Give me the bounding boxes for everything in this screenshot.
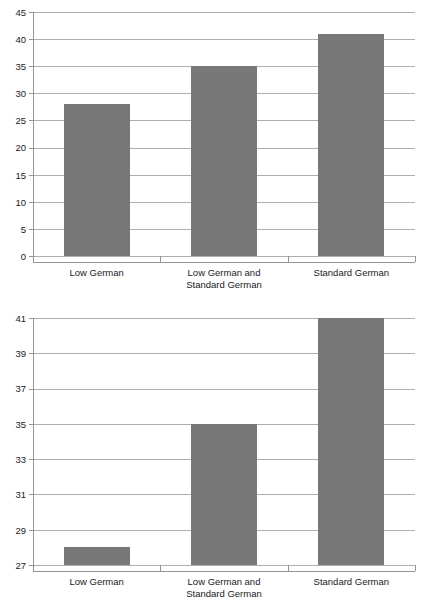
bar — [64, 547, 130, 565]
y-tick-label: 25 — [15, 115, 26, 126]
y-tick-label: 20 — [15, 142, 26, 153]
x-category-label: Standard German — [314, 267, 390, 278]
x-category-label: Standard German — [314, 576, 390, 587]
y-tick-label: 15 — [15, 170, 26, 181]
bar — [318, 318, 384, 565]
chart-top-canvas: 051015202530354045Low GermanLow German a… — [0, 0, 429, 300]
y-tick-label: 41 — [15, 313, 26, 324]
y-tick-label: 39 — [15, 348, 26, 359]
y-tick-label: 37 — [15, 383, 26, 394]
y-tick-label: 5 — [21, 224, 26, 235]
bar-chart-full-scale: 051015202530354045Low GermanLow German a… — [0, 0, 429, 300]
x-category-label: Low German — [69, 576, 123, 587]
x-category-label: Low German — [69, 267, 123, 278]
y-tick-label: 35 — [15, 419, 26, 430]
bar — [64, 104, 130, 256]
x-category-label: Low German and — [188, 576, 261, 587]
y-tick-label: 31 — [15, 489, 26, 500]
y-tick-label: 29 — [15, 525, 26, 536]
y-tick-label: 33 — [15, 454, 26, 465]
bar — [191, 424, 257, 565]
bar — [191, 66, 257, 256]
x-category-label: Standard German — [186, 279, 262, 290]
y-tick-label: 35 — [15, 61, 26, 72]
bar — [318, 34, 384, 256]
x-category-label: Low German and — [188, 267, 261, 278]
y-tick-label: 0 — [21, 251, 26, 262]
y-tick-label: 40 — [15, 34, 26, 45]
y-tick-label: 30 — [15, 88, 26, 99]
y-tick-label: 45 — [15, 7, 26, 18]
x-category-label: Standard German — [186, 588, 262, 599]
y-tick-label: 27 — [15, 560, 26, 571]
bar-chart-zoomed-scale: 2729313335373941Low GermanLow German and… — [0, 300, 429, 607]
chart-bottom-canvas: 2729313335373941Low GermanLow German and… — [0, 300, 429, 607]
y-tick-label: 10 — [15, 197, 26, 208]
